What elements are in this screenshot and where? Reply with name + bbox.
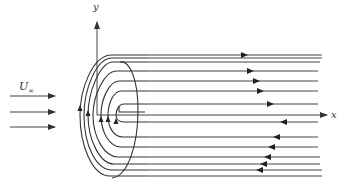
- freestream-arrows: [10, 96, 55, 127]
- upper-streamline-arrows: [241, 52, 274, 107]
- lower-streamline-arrows: [256, 119, 287, 173]
- x-axis-label: x: [331, 110, 337, 120]
- freestream-velocity-label: U∞: [19, 81, 34, 95]
- vortex-loops: [80, 55, 147, 178]
- y-axis-label: y: [93, 2, 99, 12]
- freestream-symbol: U: [19, 80, 28, 93]
- lower-streamlines: [147, 122, 322, 176]
- freestream-subscript: ∞: [28, 87, 34, 95]
- upper-streamlines: [147, 55, 322, 104]
- vortex-flow-diagram: [0, 0, 342, 186]
